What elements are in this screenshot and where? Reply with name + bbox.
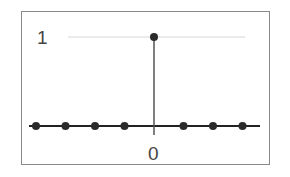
stem-marker <box>62 122 70 130</box>
y-tick-label-1: 1 <box>37 27 48 48</box>
stem-marker <box>121 122 129 130</box>
stems <box>32 33 247 135</box>
stem-marker <box>239 122 247 130</box>
stem-marker <box>180 122 188 130</box>
x-tick-label-0: 0 <box>148 143 159 164</box>
stem-marker <box>91 122 99 130</box>
stem-plot: 1 0 <box>0 0 290 177</box>
stem-marker <box>32 122 40 130</box>
stem-marker <box>150 33 158 41</box>
stem-marker <box>209 122 217 130</box>
